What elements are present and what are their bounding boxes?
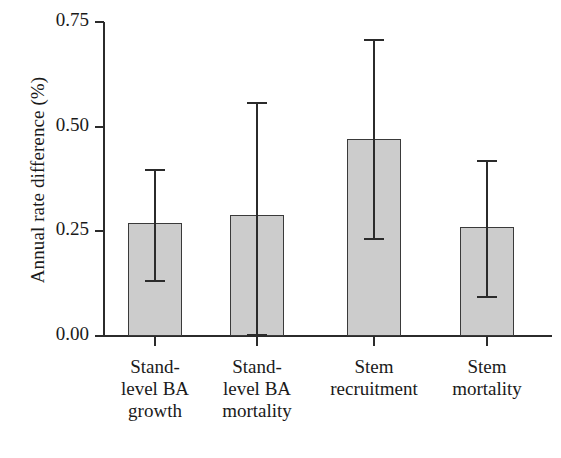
y-tick-label: 0.25: [56, 218, 89, 240]
x-category-label: Stem recruitment: [309, 356, 439, 400]
error-bar-cap-upper: [364, 39, 384, 41]
y-tick-0.75: 0.75: [95, 21, 104, 23]
y-axis-title: Annual rate difference (%): [16, 10, 60, 350]
error-bar-cap-upper: [477, 160, 497, 162]
error-bar-cap-lower: [364, 238, 384, 240]
error-bar-cap-upper: [247, 102, 267, 104]
y-tick-label: 0.50: [56, 114, 89, 136]
error-bar-stem: [154, 169, 156, 282]
error-bar-cap-lower: [247, 334, 267, 336]
x-tick-3: [486, 337, 488, 346]
error-bar-stem: [256, 102, 258, 336]
error-bar-stem: [373, 39, 375, 240]
bar-chart-figure: Annual rate difference (%) 0.000.250.500…: [0, 0, 561, 458]
y-tick-0.00: 0.00: [95, 335, 104, 337]
y-tick-0.25: 0.25: [95, 230, 104, 232]
error-bar-cap-upper: [145, 169, 165, 171]
x-tick-0: [154, 337, 156, 346]
y-tick-label: 0.75: [56, 9, 89, 31]
x-category-label: Stand- level BA mortality: [192, 356, 322, 422]
x-category-label: Stem mortality: [422, 356, 552, 400]
error-bar-cap-lower: [477, 296, 497, 298]
y-tick-0.50: 0.50: [95, 126, 104, 128]
y-axis-line: [103, 22, 105, 337]
x-tick-1: [256, 337, 258, 346]
x-tick-2: [373, 337, 375, 346]
y-tick-label: 0.00: [56, 323, 89, 345]
error-bar-stem: [486, 160, 488, 298]
plot-area: 0.000.250.500.75: [103, 22, 551, 336]
error-bar-cap-lower: [145, 280, 165, 282]
